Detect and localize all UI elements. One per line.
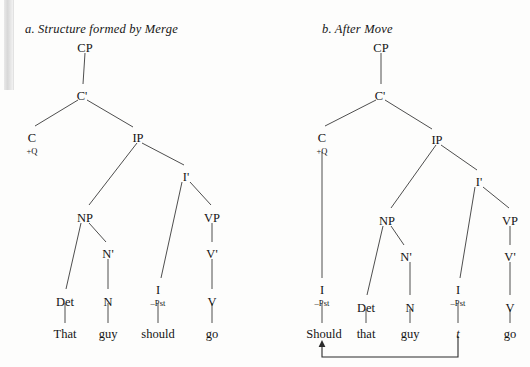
node-n-b: N: [405, 301, 414, 316]
node-c-feature-a: +Q: [26, 146, 37, 156]
node-i-moved-feature-b: –Pst: [314, 298, 329, 308]
node-i-trace-b: I: [456, 283, 460, 298]
word-go-a: go: [206, 327, 219, 342]
panel-a-caption: a. Structure formed by Merge: [25, 22, 178, 37]
node-cp-b: CP: [373, 41, 388, 56]
figure-canvas: a. Structure formed by Merge b. After Mo…: [0, 0, 530, 367]
node-v-a: V: [207, 295, 216, 310]
scan-edge-artifact: [4, 0, 14, 90]
node-c-b: C: [318, 131, 326, 146]
node-vp-b: VP: [502, 214, 518, 229]
node-v-b: V: [505, 301, 514, 316]
node-i-a: I: [156, 283, 160, 298]
word-that-b: that: [357, 327, 376, 342]
node-det-b: Det: [357, 301, 375, 316]
word-should-b: Should: [306, 327, 341, 342]
word-that-a: That: [54, 327, 77, 342]
node-ip-a: IP: [132, 131, 143, 146]
node-vbar-b: V': [504, 250, 515, 265]
word-trace-b: t: [456, 327, 459, 342]
node-ip-b: IP: [431, 133, 442, 148]
word-go-b: go: [504, 327, 517, 342]
node-i-feature-a: –Pst: [150, 298, 165, 308]
node-np-b: NP: [379, 214, 395, 229]
node-nbar-a: N': [102, 247, 113, 262]
word-should-a: should: [141, 327, 174, 342]
node-cp-a: CP: [77, 41, 92, 56]
node-i-moved-b: I: [320, 283, 324, 298]
node-c-feature-b: +Q: [316, 146, 327, 156]
node-cbar-b: C': [375, 89, 386, 104]
node-det-a: Det: [56, 295, 74, 310]
node-vbar-a: V': [206, 247, 217, 262]
panel-a-edges: [35, 53, 212, 323]
node-ibar-a: I': [183, 170, 189, 185]
node-np-a: NP: [77, 211, 93, 226]
node-nbar-b: N': [400, 250, 411, 265]
node-n-a: N: [103, 295, 112, 310]
node-ibar-b: I': [476, 175, 482, 190]
node-c-a: C: [28, 131, 36, 146]
node-vp-a: VP: [204, 211, 220, 226]
word-guy-b: guy: [401, 327, 420, 342]
node-i-trace-feature-b: –Pst: [450, 298, 465, 308]
word-guy-a: guy: [99, 327, 118, 342]
panel-b-caption: b. After Move: [322, 22, 393, 37]
node-cbar-a: C': [77, 89, 88, 104]
